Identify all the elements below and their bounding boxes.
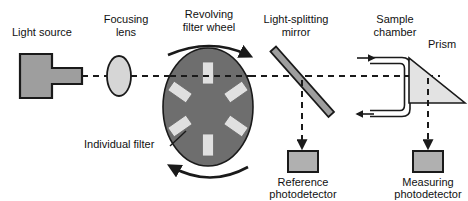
label-sample-chamber-line2: chamber <box>374 26 417 38</box>
filter-slot <box>203 134 214 156</box>
filter-slot <box>203 62 214 84</box>
revolving-filter-wheel-component <box>163 48 253 166</box>
spectrophotometer-diagram: Light source Focusing lens Revolving fil… <box>0 0 468 201</box>
label-focusing-lens-line1: Focusing <box>104 13 149 25</box>
label-reference-detector-line1: Reference <box>278 176 329 188</box>
focusing-lens-body <box>107 56 131 96</box>
label-individual-filter: Individual filter <box>84 138 155 150</box>
focusing-lens-component <box>107 56 131 96</box>
measuring-photodetector-component <box>413 151 443 172</box>
label-measuring-detector-line1: Measuring <box>402 176 453 188</box>
reference-photodetector-body <box>288 151 318 172</box>
reference-photodetector-component <box>288 151 318 172</box>
label-filter-wheel-line2: filter wheel <box>183 21 236 33</box>
diagram-root: Light source Focusing lens Revolving fil… <box>0 0 468 201</box>
label-splitting-mirror-line1: Light-splitting <box>264 13 329 25</box>
label-reference-detector-line2: photodetector <box>269 188 337 200</box>
label-splitting-mirror-line2: mirror <box>282 26 311 38</box>
measuring-photodetector-body <box>413 151 443 172</box>
label-filter-wheel-line1: Revolving <box>185 8 233 20</box>
label-focusing-lens-line2: lens <box>116 26 137 38</box>
label-measuring-detector-line2: photodetector <box>394 188 462 200</box>
label-prism: Prism <box>428 38 456 50</box>
label-sample-chamber-line1: Sample <box>376 13 413 25</box>
label-light-source: Light source <box>12 26 72 38</box>
